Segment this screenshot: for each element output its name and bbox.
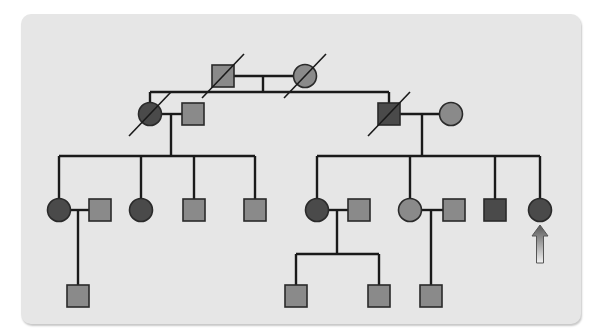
unaffected-male-iv-2 <box>285 285 307 307</box>
unaffected-male-iv-3 <box>368 285 390 307</box>
unaffected-female-iii-8 <box>399 199 422 222</box>
unaffected-male-iii-9 <box>443 199 465 221</box>
unaffected-male-iii-5 <box>244 199 266 221</box>
unaffected-male-iv-4 <box>420 285 442 307</box>
proband-arrow-icon <box>532 225 548 263</box>
pedigree-diagram <box>0 0 592 336</box>
unaffected-male-iii-2 <box>89 199 111 221</box>
affected-female-iii-3 <box>130 199 153 222</box>
unaffected-male-iii-7 <box>348 199 370 221</box>
unaffected-male-iii-4 <box>183 199 205 221</box>
unaffected-male-ii-2 <box>182 103 204 125</box>
connection-lines <box>59 76 540 285</box>
affected-female-iii-1 <box>48 199 71 222</box>
annotations <box>129 54 548 263</box>
affected-male-iii-10 <box>484 199 506 221</box>
affected-female-iii-11 <box>529 199 552 222</box>
unaffected-male-iv-1 <box>67 285 89 307</box>
affected-female-iii-6 <box>306 199 329 222</box>
individuals <box>48 65 552 308</box>
unaffected-female-ii-4 <box>440 103 463 126</box>
